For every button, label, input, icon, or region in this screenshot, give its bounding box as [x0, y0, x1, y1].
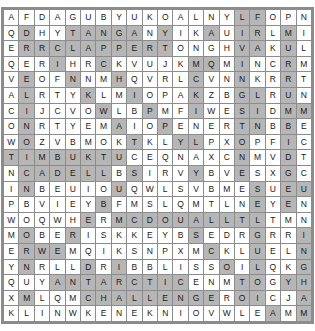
grid-cell[interactable]: B: [204, 166, 218, 181]
grid-cell[interactable]: W: [220, 306, 234, 321]
grid-cell[interactable]: O: [189, 306, 203, 321]
grid-cell[interactable]: I: [189, 104, 203, 119]
grid-cell[interactable]: N: [96, 26, 110, 41]
grid-cell[interactable]: E: [19, 72, 33, 87]
grid-cell[interactable]: A: [266, 306, 280, 321]
grid-cell[interactable]: R: [35, 119, 49, 134]
grid-cell[interactable]: N: [235, 72, 249, 87]
grid-cell[interactable]: W: [143, 182, 157, 197]
grid-cell[interactable]: R: [96, 213, 110, 228]
grid-cell[interactable]: E: [50, 228, 64, 243]
grid-cell[interactable]: G: [250, 228, 264, 243]
grid-cell[interactable]: G: [266, 275, 280, 290]
grid-cell[interactable]: T: [235, 275, 249, 290]
grid-cell[interactable]: E: [250, 197, 264, 212]
grid-cell[interactable]: M: [96, 119, 110, 134]
grid-cell[interactable]: M: [250, 150, 264, 165]
grid-cell[interactable]: N: [297, 197, 311, 212]
grid-cell[interactable]: B: [127, 104, 141, 119]
grid-cell[interactable]: S: [127, 166, 141, 181]
grid-cell[interactable]: Q: [173, 197, 187, 212]
grid-cell[interactable]: F: [112, 197, 126, 212]
grid-cell[interactable]: N: [220, 72, 234, 87]
grid-cell[interactable]: K: [112, 57, 126, 72]
grid-cell[interactable]: V: [266, 150, 280, 165]
grid-cell[interactable]: R: [96, 260, 110, 275]
grid-cell[interactable]: K: [189, 26, 203, 41]
grid-cell[interactable]: L: [250, 213, 264, 228]
grid-cell[interactable]: P: [143, 104, 157, 119]
grid-cell[interactable]: I: [35, 306, 49, 321]
grid-cell[interactable]: E: [204, 291, 218, 306]
grid-cell[interactable]: N: [297, 213, 311, 228]
grid-cell[interactable]: O: [81, 104, 95, 119]
grid-cell[interactable]: M: [281, 26, 295, 41]
grid-cell[interactable]: V: [4, 72, 18, 87]
grid-cell[interactable]: P: [281, 10, 295, 25]
grid-cell[interactable]: D: [35, 10, 49, 25]
grid-cell[interactable]: I: [235, 26, 249, 41]
grid-cell[interactable]: M: [4, 228, 18, 243]
grid-cell[interactable]: X: [266, 166, 280, 181]
grid-cell[interactable]: I: [143, 166, 157, 181]
grid-cell[interactable]: R: [220, 119, 234, 134]
grid-cell[interactable]: P: [158, 88, 172, 103]
grid-cell[interactable]: R: [81, 57, 95, 72]
grid-cell[interactable]: C: [127, 213, 141, 228]
grid-cell[interactable]: W: [96, 104, 110, 119]
grid-cell[interactable]: L: [19, 306, 33, 321]
grid-cell[interactable]: M: [19, 291, 33, 306]
grid-cell[interactable]: R: [281, 228, 295, 243]
grid-cell[interactable]: U: [281, 88, 295, 103]
grid-cell[interactable]: Q: [127, 182, 141, 197]
grid-cell[interactable]: I: [19, 150, 33, 165]
grid-cell[interactable]: J: [158, 57, 172, 72]
grid-cell[interactable]: L: [158, 182, 172, 197]
grid-cell[interactable]: O: [250, 275, 264, 290]
grid-cell[interactable]: T: [235, 213, 249, 228]
grid-cell[interactable]: R: [281, 72, 295, 87]
grid-cell[interactable]: O: [19, 213, 33, 228]
grid-cell[interactable]: O: [19, 135, 33, 150]
grid-cell[interactable]: F: [250, 10, 264, 25]
grid-cell[interactable]: P: [96, 41, 110, 56]
grid-cell[interactable]: R: [266, 228, 280, 243]
grid-cell[interactable]: R: [35, 57, 49, 72]
grid-cell[interactable]: K: [189, 88, 203, 103]
grid-cell[interactable]: O: [35, 72, 49, 87]
grid-cell[interactable]: Y: [220, 10, 234, 25]
grid-cell[interactable]: L: [50, 260, 64, 275]
grid-cell[interactable]: M: [281, 213, 295, 228]
grid-cell[interactable]: N: [173, 291, 187, 306]
grid-cell[interactable]: B: [220, 88, 234, 103]
grid-cell[interactable]: E: [173, 119, 187, 134]
grid-cell[interactable]: F: [50, 72, 64, 87]
grid-cell[interactable]: T: [50, 119, 64, 134]
grid-cell[interactable]: N: [19, 119, 33, 134]
grid-cell[interactable]: N: [235, 197, 249, 212]
grid-cell[interactable]: N: [143, 26, 157, 41]
grid-cell[interactable]: A: [250, 41, 264, 56]
grid-cell[interactable]: A: [4, 88, 18, 103]
grid-cell[interactable]: F: [19, 10, 33, 25]
grid-cell[interactable]: C: [81, 291, 95, 306]
grid-cell[interactable]: I: [297, 228, 311, 243]
grid-cell[interactable]: D: [19, 26, 33, 41]
grid-cell[interactable]: S: [250, 166, 264, 181]
grid-cell[interactable]: L: [297, 41, 311, 56]
grid-cell[interactable]: C: [297, 166, 311, 181]
grid-cell[interactable]: Y: [173, 135, 187, 150]
grid-cell[interactable]: P: [158, 119, 172, 134]
grid-cell[interactable]: W: [35, 244, 49, 259]
grid-cell[interactable]: N: [173, 150, 187, 165]
grid-cell[interactable]: U: [127, 10, 141, 25]
grid-cell[interactable]: Y: [66, 88, 80, 103]
grid-cell[interactable]: K: [173, 57, 187, 72]
grid-cell[interactable]: B: [96, 10, 110, 25]
grid-cell[interactable]: N: [112, 306, 126, 321]
grid-cell[interactable]: Q: [158, 150, 172, 165]
grid-cell[interactable]: V: [35, 197, 49, 212]
grid-cell[interactable]: A: [297, 291, 311, 306]
grid-cell[interactable]: H: [66, 213, 80, 228]
grid-cell[interactable]: N: [297, 10, 311, 25]
